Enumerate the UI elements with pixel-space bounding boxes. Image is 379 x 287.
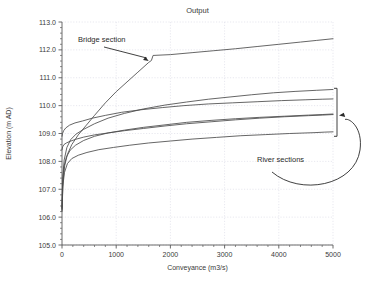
y-tick-label-2: 107.0 xyxy=(38,186,56,193)
x-tick-label-1: 1000 xyxy=(108,251,124,258)
x-tick-label-0: 0 xyxy=(60,251,64,258)
y-tick-label-1: 106.0 xyxy=(38,214,56,221)
y-tick-label-8: 113.0 xyxy=(39,19,56,26)
chart-figure: 105.0106.0107.0108.0109.0110.0111.0112.0… xyxy=(0,0,379,287)
x-tick-label-5: 5000 xyxy=(325,251,341,258)
y-axis-title: Elevation (m AD) xyxy=(5,107,13,160)
annotation-bracket-river-sections xyxy=(334,88,337,136)
y-tick-label-4: 109.0 xyxy=(38,130,56,137)
annotation-label-bridge-section: Bridge section xyxy=(78,35,126,44)
y-tick-label-3: 108.0 xyxy=(38,158,56,165)
x-tick-label-4: 4000 xyxy=(271,251,287,258)
chart-title: Output xyxy=(186,6,209,15)
series-line-0: Bridge section xyxy=(62,39,333,212)
output-line-chart: 105.0106.0107.0108.0109.0110.0111.0112.0… xyxy=(0,0,379,287)
y-tick-label-7: 112.0 xyxy=(39,46,56,53)
series-line-2: River section 2 xyxy=(62,99,333,136)
y-tick-label-5: 110.0 xyxy=(39,102,56,109)
annotation-arrowhead-river-sections xyxy=(339,113,345,117)
series-line-4: River section 4 xyxy=(62,115,333,150)
x-axis-title: Conveyance (m3/s) xyxy=(167,264,228,272)
y-tick-label-6: 111.0 xyxy=(40,74,57,81)
annotation-leader-bridge-section xyxy=(104,47,147,58)
x-tick-label-3: 3000 xyxy=(217,251,233,258)
series-line-1: River section 1 xyxy=(62,89,333,207)
annotation-label-river-sections: River sections xyxy=(257,155,304,164)
series-line-5: River section 5 xyxy=(62,132,333,210)
x-tick-label-2: 2000 xyxy=(163,251,179,258)
y-tick-label-0: 105.0 xyxy=(38,242,56,249)
annotation-leader-river-sections xyxy=(272,119,360,185)
